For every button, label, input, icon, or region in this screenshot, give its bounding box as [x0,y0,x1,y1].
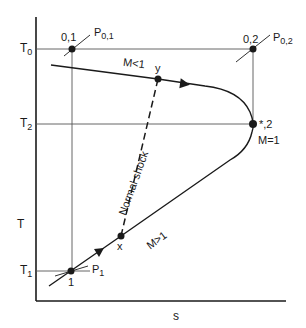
state-point-02 [250,46,257,53]
x-axis-label: s [173,310,179,322]
label-t1: T1 [20,264,32,279]
label-mach-1: M=1 [258,135,280,146]
state-point-star2 [249,120,257,128]
state-point-y [155,76,162,83]
label-p1: P1 [92,264,104,278]
label-state-02: 0,2 [243,34,258,45]
arrow-icon-supersonic [94,248,104,257]
process-curve-subsonic [51,65,253,132]
state-point-1 [68,268,75,275]
state-point-x [118,233,125,240]
label-state-y: y [155,63,161,74]
label-state-01: 0,1 [61,32,76,43]
label-p02: P0,2 [273,32,293,46]
ts-diagram [0,0,306,328]
label-p01: P0,1 [94,27,114,41]
label-t0: T0 [20,42,32,57]
label-state-star2: *,2 [259,119,272,130]
process-curve-supersonic [49,132,252,286]
label-state-1: 1 [68,277,74,288]
state-point-01 [69,46,76,53]
label-t2: T2 [20,117,32,132]
label-state-x: x [117,241,123,252]
y-axis-label: T [17,218,24,230]
